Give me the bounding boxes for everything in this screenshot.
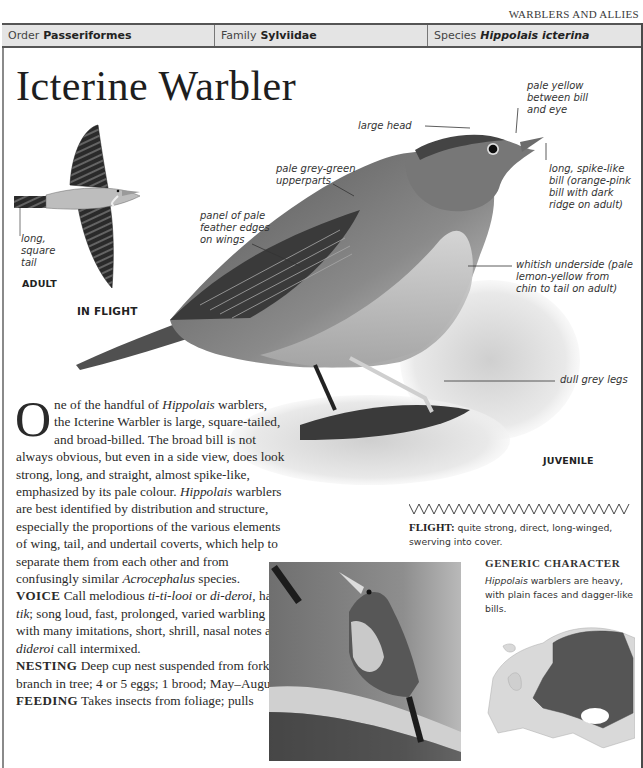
voice-paragraph: VOICE Call melodious ti-ti-looi or di-de…: [16, 587, 286, 657]
bill-annotation: long, spike-like bill (orange-pink bill …: [549, 163, 631, 211]
flight-description: FLIGHT: quite strong, direct, long-winge…: [409, 520, 637, 549]
in-flight-caption: IN FLIGHT: [77, 305, 138, 317]
flight-pattern-icon: [409, 503, 634, 515]
pale-yellow-annotation: pale yellow between bill and eye: [527, 80, 588, 116]
adult-label: ADULT: [22, 278, 57, 289]
drop-cap: O: [15, 399, 51, 439]
text-run: ; song loud, fast, prolonged, varied war…: [16, 606, 284, 638]
tail-annotation-line: square: [21, 245, 55, 257]
nesting-paragraph: NESTING Deep cup nest suspended from for…: [16, 657, 286, 692]
generic-character-text: Hippolais warblers are heavy, with plain…: [485, 574, 635, 616]
text-run: Call melodious: [60, 588, 148, 603]
annotation-line: panel of pale: [200, 210, 270, 222]
section-head: FEEDING: [16, 693, 78, 708]
text-run: call intermixed.: [54, 641, 141, 656]
annotation-line: lemon-yellow from: [516, 271, 633, 283]
juvenile-label: JUVENILE: [543, 455, 594, 466]
wing-panel-annotation: panel of pale feather edges on wings: [200, 210, 270, 246]
annotation-line: feather edges: [200, 222, 270, 234]
large-head-annotation: large head: [358, 120, 412, 132]
text-run: Takes insects from foliage; pulls: [78, 693, 254, 708]
tail-annotation-line: long,: [21, 233, 55, 245]
intro-paragraph: One of the handful of Hippolais warblers…: [16, 396, 286, 587]
annotation-line: whitish underside (pale: [516, 259, 633, 271]
call-text: di-deroi: [210, 588, 252, 603]
annotation-line: pale grey-green: [276, 163, 355, 175]
genus-name: Hippolais: [180, 484, 232, 499]
genus-name: Hippolais: [162, 397, 214, 412]
photo-image: [269, 562, 461, 761]
legs-annotation: dull grey legs: [560, 374, 628, 386]
feeding-paragraph: FEEDING Takes insects from foliage; pull…: [16, 692, 286, 709]
tail-annotation-line: tail: [21, 257, 55, 269]
annotation-line: upperparts: [276, 175, 355, 187]
annotation-line: long, spike-like: [549, 163, 631, 175]
section-head: VOICE: [16, 588, 60, 603]
underside-annotation: whitish underside (pale lemon-yellow fro…: [516, 259, 633, 295]
text-run: or: [192, 588, 210, 603]
annotation-line: and eye: [527, 104, 588, 116]
generic-character-heading: GENERIC CHARACTER: [485, 557, 620, 569]
perched-bird-photo: [269, 562, 461, 761]
text-run: species.: [195, 571, 240, 586]
flight-head: FLIGHT:: [409, 521, 455, 533]
annotation-line: ridge on adult): [549, 199, 631, 211]
annotation-line: bill (orange-pink: [549, 175, 631, 187]
text-run: ne of the handful of: [54, 397, 162, 412]
species-description: One of the handful of Hippolais warblers…: [16, 396, 286, 709]
annotation-line: on wings: [200, 234, 270, 246]
annotation-line: bill with dark: [549, 187, 631, 199]
call-text: ti-ti-looi: [148, 588, 192, 603]
range-map: [483, 618, 635, 761]
call-text: dideroi: [16, 641, 54, 656]
section-head: NESTING: [16, 658, 77, 673]
genus-name: Hippolais: [485, 575, 528, 586]
annotation-line: between bill: [527, 92, 588, 104]
annotation-line: chin to tail on adult): [516, 283, 633, 295]
tail-annotation: long, square tail: [21, 233, 55, 269]
annotation-line: pale yellow: [527, 80, 588, 92]
upperparts-annotation: pale grey-green upperparts: [276, 163, 355, 187]
range-map-image: [483, 618, 635, 761]
genus-name: Acrocephalus: [122, 571, 195, 586]
call-text: tik: [16, 606, 29, 621]
